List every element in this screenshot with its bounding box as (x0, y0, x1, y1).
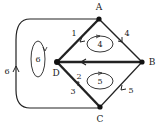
arrow-icon (43, 47, 47, 51)
edge-5 (100, 62, 142, 107)
edge-label-4: 4 (124, 29, 129, 38)
graph-diagram: A B C D 1 4 2 3 5 6 4 5 6 (0, 0, 162, 127)
node-label-A: A (95, 2, 103, 12)
face-label-5: 5 (97, 77, 102, 86)
face-label-6: 6 (35, 55, 40, 64)
face-label-4: 4 (97, 40, 102, 49)
edge-1 (57, 19, 99, 62)
edge-label-6: 6 (4, 67, 9, 76)
edge-label-1: 1 (71, 29, 76, 38)
node-label-B: B (149, 57, 156, 67)
node-label-D: D (52, 68, 59, 78)
edge-label-2: 2 (76, 72, 81, 81)
edge-label-5: 5 (128, 86, 133, 95)
edge-label-3: 3 (70, 87, 75, 96)
node-D (54, 59, 60, 65)
node-label-C: C (97, 114, 104, 124)
arrow-icon (121, 85, 126, 90)
edge-4 (99, 19, 142, 62)
node-B (139, 59, 144, 64)
node-C (97, 104, 102, 109)
node-A (96, 16, 101, 21)
arrow-icon (98, 72, 102, 75)
